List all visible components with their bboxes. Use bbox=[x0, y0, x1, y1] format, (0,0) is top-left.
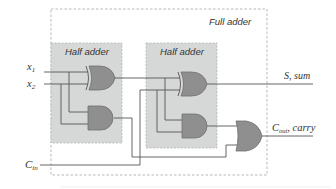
half-adder-2-label: Half adder bbox=[160, 46, 205, 57]
or-gate-carry bbox=[236, 121, 262, 151]
half-adder-1-box bbox=[51, 43, 122, 143]
full-adder-label: Full adder bbox=[209, 16, 252, 27]
output-sum-label: S, sum bbox=[284, 70, 310, 81]
input-x1-label: x1 bbox=[26, 61, 35, 74]
half-adder-1-label: Half adder bbox=[65, 46, 110, 57]
full-adder-diagram: Full adder Half adder Half adder bbox=[0, 0, 336, 189]
and-gate-2 bbox=[182, 114, 207, 138]
output-carry-label: Cout, carry bbox=[272, 122, 316, 134]
input-cin-label: Cin bbox=[25, 158, 38, 172]
input-x2-label: x2 bbox=[26, 78, 36, 91]
and-gate-1 bbox=[88, 106, 113, 130]
